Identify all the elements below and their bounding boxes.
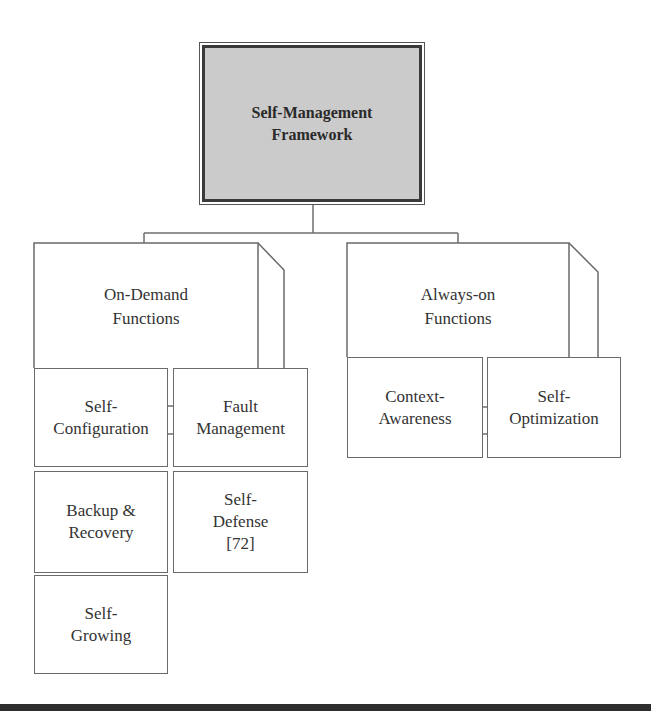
on-demand-functions-label: On-Demand Functions	[34, 283, 258, 331]
node-context-awareness: Context- Awareness	[347, 357, 483, 458]
bottom-rule-divider	[0, 704, 651, 711]
node-label: Self- Optimization	[509, 386, 599, 430]
node-label: Context- Awareness	[378, 386, 451, 430]
node-self-optimization: Self- Optimization	[487, 357, 621, 458]
node-fault-management: Fault Management	[173, 368, 308, 467]
node-self-growing: Self- Growing	[34, 575, 168, 674]
node-backup-recovery: Backup & Recovery	[34, 471, 168, 573]
node-self-defense: Self- Defense [72]	[173, 471, 308, 573]
always-on-functions-label: Always-on Functions	[347, 283, 569, 331]
node-self-configuration: Self- Configuration	[34, 368, 168, 467]
node-label: Self- Growing	[71, 603, 131, 647]
node-label: Self- Configuration	[53, 396, 148, 440]
node-label: Self- Defense [72]	[213, 489, 269, 555]
node-label: Backup & Recovery	[66, 500, 135, 544]
root-node-label: Self-Management Framework	[252, 102, 373, 146]
root-node-fill: Self-Management Framework	[202, 45, 422, 202]
root-node-self-management-framework: Self-Management Framework	[199, 42, 425, 205]
node-label: Fault Management	[196, 396, 285, 440]
